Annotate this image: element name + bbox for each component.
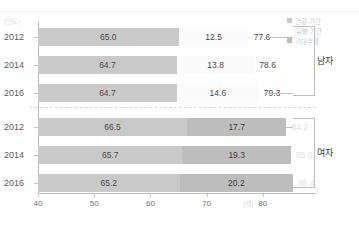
y-axis-year-label: 2016: [4, 174, 24, 192]
bar-segment-healthy: 65.0: [38, 28, 179, 46]
y-axis-year-label: 2012: [4, 28, 24, 46]
legend-label: 유병 기간: [296, 26, 322, 36]
x-tick-60: [150, 193, 151, 197]
group-label-female: 여자: [317, 146, 333, 159]
bar-segment-illness: 12.5: [179, 28, 249, 46]
chart-container: (연도) (세) 4050607080 201265.012.577.62014…: [0, 0, 359, 230]
x-tick-40: [38, 193, 39, 197]
x-tick-70: [207, 193, 208, 197]
bar-segment-healthy: 65.2: [38, 174, 180, 192]
legend-label: 건강 기간: [295, 16, 321, 26]
x-tick-label-40: 40: [34, 199, 43, 208]
x-tick-50: [94, 193, 95, 197]
x-tick-label-50: 50: [90, 199, 99, 208]
group-divider: [30, 107, 316, 108]
y-axis-year-label: 2012: [4, 118, 24, 136]
bar-segment-healthy: 65.7: [38, 146, 182, 164]
legend-label: 기대수명: [295, 36, 319, 46]
y-axis-year-label: 2014: [4, 146, 24, 164]
legend-item[interactable]: 기대수명: [287, 36, 357, 45]
y-axis-year-label: 2014: [4, 56, 24, 74]
leader-line: [268, 93, 293, 94]
bar-segment-illness: 14.6: [177, 84, 259, 102]
bar-segment-healthy: 64.7: [38, 84, 177, 102]
y-axis-unit-label: (연도): [4, 16, 21, 26]
life-expectancy-value: 78.6: [259, 56, 276, 74]
x-tick-label-60: 60: [146, 199, 155, 208]
top-divider: [0, 11, 359, 12]
legend-item[interactable]: 유병 기간: [287, 26, 357, 35]
y-axis-year-label: 2016: [4, 84, 24, 102]
leader-line: [272, 183, 293, 184]
group-label-male: 남자: [317, 54, 333, 67]
bar-segment-healthy: 64.7: [38, 56, 177, 74]
x-axis-unit-label: (세): [243, 198, 254, 208]
bar-segment-illness: 13.8: [177, 56, 255, 74]
x-axis-line: [38, 193, 316, 194]
group-bracket-female: 여자: [293, 118, 321, 188]
x-tick-label-70: 70: [202, 199, 211, 208]
x-tick-80: [263, 193, 264, 197]
leader-line: [272, 127, 293, 128]
leader-line: [268, 37, 293, 38]
bar-segment-healthy: 66.5: [38, 118, 187, 136]
legend: 건강 기간유병 기간기대수명: [287, 16, 357, 46]
legend-swatch-life-icon: [287, 38, 292, 43]
legend-swatch-healthy-icon: [287, 18, 292, 23]
legend-item[interactable]: 건강 기간: [287, 16, 357, 25]
bar-segment-illness: 19.3: [182, 146, 290, 164]
x-tick-label-80: 80: [258, 199, 267, 208]
